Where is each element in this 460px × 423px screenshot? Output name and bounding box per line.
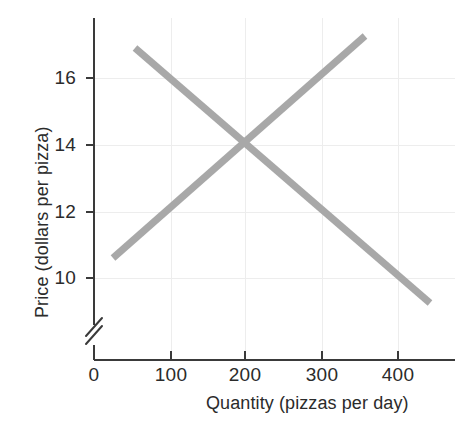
axis-lines [94, 18, 455, 360]
chart-figure: 16 14 12 10 0 100 200 300 400 Price (dol… [0, 0, 460, 423]
grid-lines [94, 18, 455, 360]
xtick-label-100: 100 [146, 364, 196, 386]
xtick-label-300: 300 [297, 364, 347, 386]
x-axis-ticks [171, 351, 398, 360]
x-axis-title: Quantity (pizzas per day) [206, 393, 409, 414]
xtick-label-0: 0 [69, 364, 119, 386]
xtick-label-400: 400 [373, 364, 423, 386]
y-axis-ticks [86, 78, 94, 278]
xtick-label-200: 200 [220, 364, 270, 386]
demand-curve [135, 48, 430, 303]
y-axis-title: Price (dollars per pizza) [32, 126, 53, 318]
ytick-label-16: 16 [36, 67, 76, 89]
supply-curve [113, 36, 365, 258]
